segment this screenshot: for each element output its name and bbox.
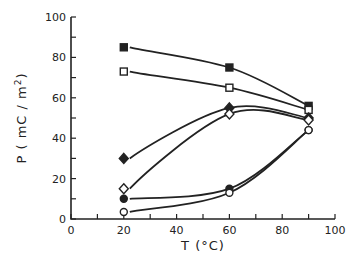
y-axis-label-end: ) (14, 72, 29, 78)
y-axis-label: P ( mC / m2) (13, 72, 29, 163)
data-point-filled-square (120, 44, 127, 51)
y-tick-label: 0 (59, 213, 66, 226)
x-axis-label: T (°C) (180, 238, 225, 253)
x-tick-label: 60 (222, 224, 236, 237)
data-point-open-diamond (225, 109, 234, 119)
data-point-filled-diamond (119, 153, 128, 163)
y-axis-label-main: P ( mC / m (14, 85, 29, 163)
x-tick-label: 100 (325, 224, 346, 237)
data-point-open-square (120, 68, 127, 75)
chart: 020406080100020406080100 T (°C) P ( mC /… (0, 0, 359, 269)
y-tick-label: 60 (52, 92, 66, 105)
x-tick-label: 80 (275, 224, 289, 237)
series-line-open-diamond (130, 110, 309, 189)
data-point-open-circle (305, 127, 312, 134)
x-tick-label: 40 (170, 224, 184, 237)
series-group (119, 44, 313, 216)
data-point-open-diamond (119, 184, 128, 194)
data-point-filled-circle (120, 195, 127, 202)
x-tick-label: 20 (117, 224, 131, 237)
data-point-filled-square (226, 64, 233, 71)
y-tick-label: 20 (52, 173, 66, 186)
y-tick-label: 100 (45, 11, 66, 24)
data-point-open-square (226, 84, 233, 91)
y-tick-label: 80 (52, 51, 66, 64)
x-tick-label: 0 (68, 224, 75, 237)
data-point-open-circle (226, 189, 233, 196)
y-axis-label-sup: 2 (13, 79, 23, 86)
y-tick-label: 40 (52, 132, 66, 145)
data-point-open-circle (120, 208, 127, 215)
